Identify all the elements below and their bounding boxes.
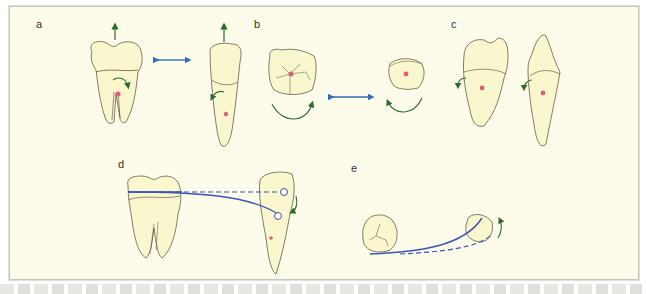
tooth-diagram [0, 0, 646, 294]
center-point-icon [115, 91, 120, 96]
panel-c-teeth [458, 35, 560, 146]
panel-b-occlusal-molar [269, 49, 316, 119]
caption-text-cutoff [0, 284, 646, 294]
panel-d [128, 172, 297, 274]
panel-b-occlusal-premolar [388, 59, 424, 112]
panel-e [363, 215, 502, 254]
panel-a-incisor [210, 26, 241, 146]
panel-a-molar [91, 26, 142, 123]
